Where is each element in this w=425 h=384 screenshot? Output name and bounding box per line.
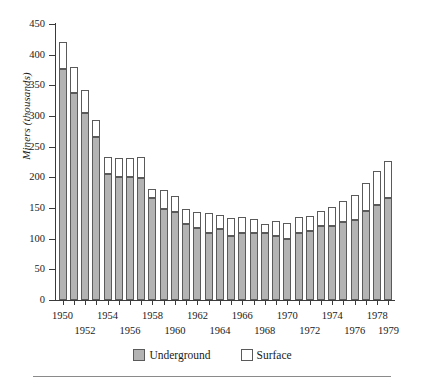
bar-segment-surface	[283, 223, 291, 238]
legend-label-underground: Underground	[149, 349, 210, 361]
bar-1960	[171, 196, 179, 300]
x-tick	[186, 300, 187, 305]
bar-segment-surface	[137, 157, 145, 178]
x-tick	[152, 300, 153, 305]
bar-segment-surface	[70, 67, 78, 93]
bar-segment-underground	[227, 236, 235, 300]
bar-1950	[59, 42, 67, 300]
bar-segment-surface	[227, 218, 235, 235]
bar-segment-underground	[216, 229, 224, 300]
x-tick	[63, 300, 64, 305]
bar-segment-surface	[362, 183, 370, 211]
bar-1966	[238, 217, 246, 300]
bar-segment-underground	[92, 137, 100, 300]
bar-1971	[295, 217, 303, 300]
bar-segment-underground	[160, 209, 168, 300]
bar-segment-underground	[182, 224, 190, 300]
y-tick-label: 150	[0, 203, 45, 213]
bar-segment-underground	[328, 226, 336, 300]
x-tick	[96, 300, 97, 305]
y-tick-label: 450	[0, 19, 45, 29]
bar-1961	[182, 209, 190, 300]
bar-1969	[272, 221, 280, 300]
bar-segment-surface	[261, 224, 269, 233]
y-tick-label: 350	[0, 80, 45, 90]
x-tick-label: 1972	[290, 325, 330, 336]
bar-segment-surface	[216, 215, 224, 230]
x-tick	[108, 300, 109, 305]
bar-1964	[216, 215, 224, 300]
bar-segment-surface	[104, 157, 112, 174]
bar-segment-underground	[306, 231, 314, 300]
bar-segment-underground	[104, 174, 112, 300]
bar-1967	[250, 219, 258, 300]
x-tick-label: 1962	[177, 310, 217, 321]
y-tick	[49, 177, 55, 178]
x-tick-label: 1956	[110, 325, 150, 336]
bar-segment-underground	[148, 198, 156, 300]
bar-segment-surface	[384, 161, 392, 198]
bar-segment-underground	[362, 211, 370, 300]
y-tick-label: 50	[0, 264, 45, 274]
x-tick-label: 1970	[267, 310, 307, 321]
x-tick	[130, 300, 131, 305]
bar-1978	[373, 171, 381, 300]
bar-segment-underground	[339, 222, 347, 301]
bar-segment-underground	[81, 113, 89, 300]
legend-item-underground: Underground	[133, 349, 210, 361]
bar-segment-surface	[148, 189, 156, 198]
x-tick	[276, 300, 277, 305]
y-tick	[49, 24, 55, 25]
bar-segment-underground	[137, 178, 145, 300]
y-tick	[49, 85, 55, 86]
bar-segment-surface	[81, 90, 89, 113]
bar-segment-underground	[351, 220, 359, 300]
y-tick-label: 250	[0, 142, 45, 152]
x-tick	[85, 300, 86, 305]
bar-1977	[362, 183, 370, 300]
x-tick	[141, 300, 142, 305]
bar-segment-surface	[317, 211, 325, 226]
bar-segment-underground	[295, 233, 303, 300]
x-tick	[209, 300, 210, 305]
x-tick	[254, 300, 255, 305]
bar-segment-surface	[182, 209, 190, 224]
x-tick	[377, 300, 378, 305]
y-tick	[49, 147, 55, 148]
bar-segment-underground	[59, 69, 67, 300]
legend-swatch-underground	[133, 349, 145, 361]
bar-segment-surface	[238, 217, 246, 233]
bar-segment-surface	[126, 158, 134, 178]
bar-segment-surface	[92, 120, 100, 137]
y-tick	[49, 239, 55, 240]
x-tick	[197, 300, 198, 305]
chart-legend: Underground Surface	[0, 349, 425, 361]
chart-figure: Miners (thousands) 450400350300250200150…	[0, 0, 425, 384]
bar-segment-surface	[171, 196, 179, 212]
bar-1970	[283, 223, 291, 300]
bar-segment-surface	[59, 42, 67, 68]
x-tick-label: 1966	[222, 310, 262, 321]
y-tick-label: 300	[0, 111, 45, 121]
x-tick-label: 1978	[357, 310, 397, 321]
x-tick	[231, 300, 232, 305]
bar-1951	[70, 67, 78, 300]
bar-segment-underground	[70, 93, 78, 300]
footer-rule	[33, 376, 391, 377]
x-tick	[220, 300, 221, 305]
x-tick	[164, 300, 165, 305]
bar-segment-surface	[295, 217, 303, 232]
x-tick	[299, 300, 300, 305]
y-tick-label: 200	[0, 172, 45, 182]
bar-segment-surface	[115, 158, 123, 177]
bar-1973	[317, 211, 325, 300]
bar-1962	[193, 212, 201, 300]
bar-1975	[339, 201, 347, 300]
x-tick	[343, 300, 344, 305]
x-tick	[175, 300, 176, 305]
bar-1955	[115, 158, 123, 300]
bar-segment-underground	[272, 236, 280, 300]
y-tick-label: 0	[0, 295, 45, 305]
x-tick	[74, 300, 75, 305]
y-tick	[49, 208, 55, 209]
